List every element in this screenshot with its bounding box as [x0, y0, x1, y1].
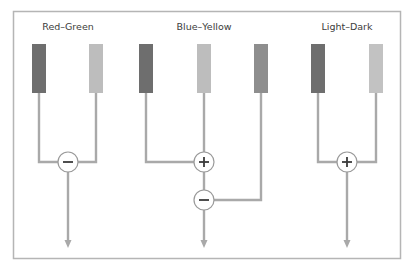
wire-rg-left — [39, 93, 68, 162]
label-red-green: Red–Green — [42, 21, 94, 32]
group-red-green — [32, 44, 103, 248]
wire-ld-right — [347, 93, 376, 162]
output-arrow-icon — [65, 240, 72, 248]
label-blue-yellow: Blue–Yellow — [176, 21, 231, 32]
receptor-bar-dark — [311, 44, 325, 93]
plus-node — [337, 152, 357, 172]
receptor-bar-light — [369, 44, 383, 93]
plus-node — [194, 152, 214, 172]
receptor-bar-light — [197, 44, 211, 93]
label-light-dark: Light–Dark — [321, 21, 373, 32]
receptor-bar-dark — [32, 44, 46, 93]
receptor-bar-dark — [139, 44, 153, 93]
group-light-dark — [311, 44, 383, 248]
opponent-channel-diagram: Red–Green Blue–Yellow Light–Dark — [0, 0, 411, 266]
minus-node — [194, 190, 214, 210]
group-blue-yellow — [139, 44, 268, 248]
wire-by-right — [204, 93, 261, 200]
wire-by-left — [146, 93, 204, 162]
wire-rg-right — [68, 93, 96, 162]
minus-node — [58, 152, 78, 172]
output-arrow-icon — [344, 240, 351, 248]
receptor-bar-medium — [254, 44, 268, 93]
output-arrow-icon — [201, 240, 208, 248]
wire-ld-left — [318, 93, 347, 162]
receptor-bar-light — [89, 44, 103, 93]
